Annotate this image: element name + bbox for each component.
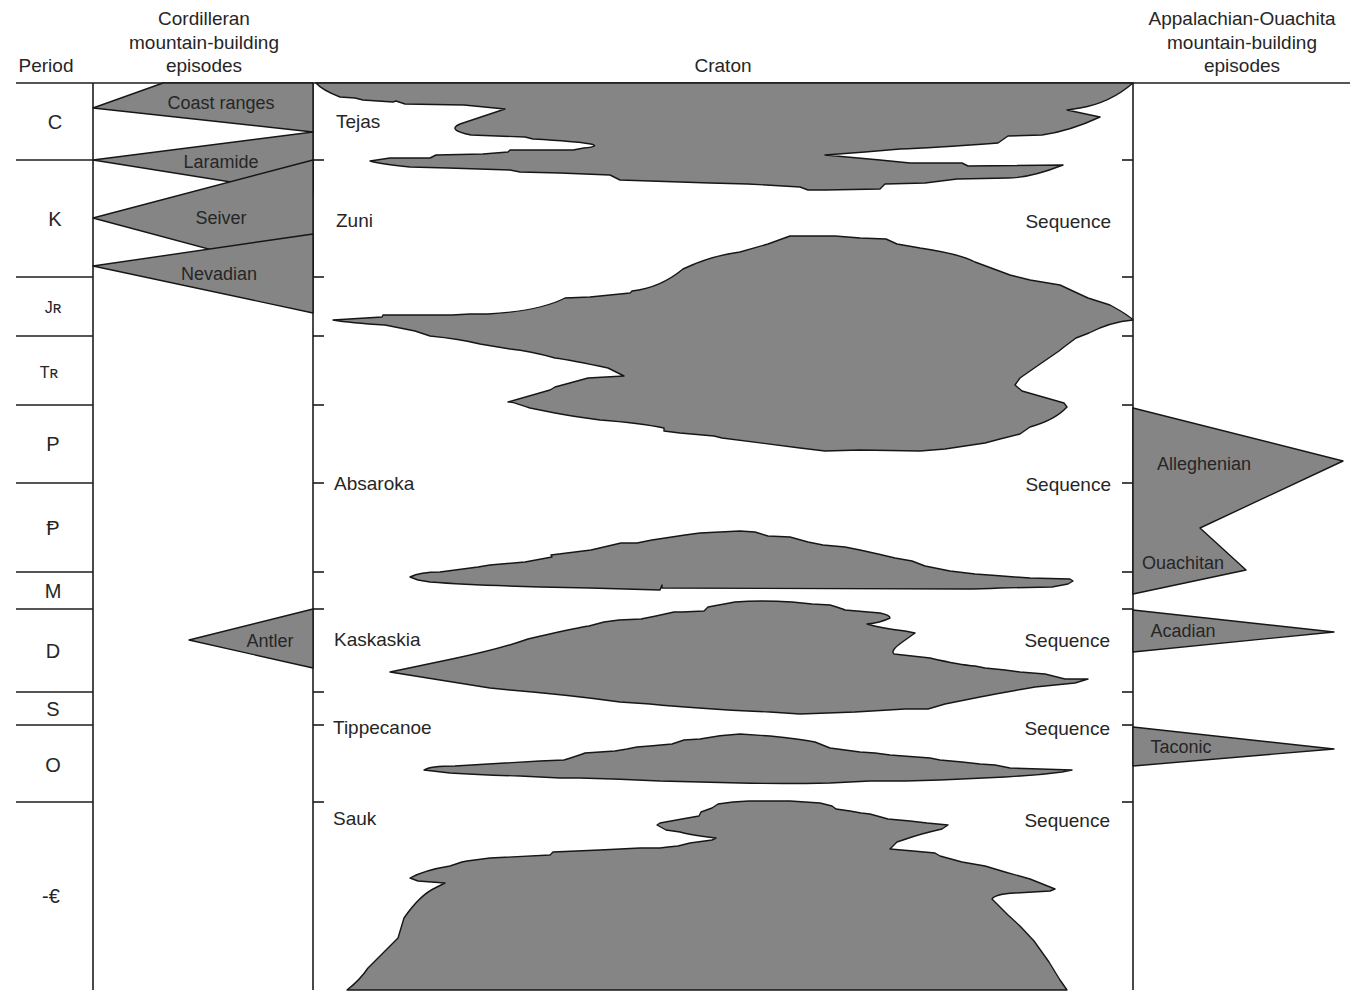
tippecanoe-sequence-shape [424, 734, 1072, 784]
acadian-label: Acadian [1150, 621, 1215, 641]
tejas-sequence-shape [316, 83, 1133, 190]
header-appalachian-2: mountain-building [1167, 32, 1317, 53]
tippecanoe-sequence-suffix: Sequence [1024, 718, 1110, 739]
taconic-label: Taconic [1150, 737, 1211, 757]
sauk-sequence-shape [347, 801, 1067, 990]
header-appalachian-3: episodes [1204, 55, 1280, 76]
kaskaskia-label: Kaskaskia [334, 629, 421, 650]
header-period: Period [19, 55, 74, 76]
absaroka-label: Absaroka [334, 473, 415, 494]
antler-label: Antler [246, 631, 293, 651]
tippecanoe-label: Tippecanoe [333, 717, 432, 738]
period-label-triassic: Tʀ [40, 364, 59, 381]
zuni-label: Zuni [336, 210, 373, 231]
alleghenian-label: Alleghenian [1157, 454, 1251, 474]
header-appalachian-1: Appalachian-Ouachita [1149, 8, 1336, 29]
laramide-label: Laramide [183, 152, 258, 172]
header-cordilleran-1: Cordilleran [158, 8, 250, 29]
period-label-s: S [46, 698, 59, 720]
sauk-label: Sauk [333, 808, 377, 829]
ouachitan-label: Ouachitan [1142, 553, 1224, 573]
header-cordilleran-2: mountain-building [129, 32, 279, 53]
craton-sequences [316, 83, 1133, 990]
period-label-cambrian: -€ [42, 885, 60, 907]
period-label-m: M [45, 580, 62, 602]
sequence-diagram: Period Cordilleran mountain-building epi… [0, 0, 1350, 996]
tejas-label: Tejas [336, 111, 380, 132]
period-label-c: C [48, 111, 62, 133]
period-label-d: D [46, 640, 60, 662]
header-craton: Craton [694, 55, 751, 76]
kaskaskia-sequence-shape [390, 601, 1088, 714]
sauk-sequence-suffix: Sequence [1024, 810, 1110, 831]
zuni-sequence-suffix: Sequence [1025, 211, 1111, 232]
period-label-pennsylvanian: Ᵽ [46, 517, 59, 539]
header-cordilleran-3: episodes [166, 55, 242, 76]
period-label-o: O [45, 754, 61, 776]
period-label-p: P [46, 433, 59, 455]
period-label-jurassic: Jʀ [45, 299, 62, 316]
seiver-label: Seiver [195, 208, 246, 228]
zuni-sequence-shape [333, 236, 1133, 451]
period-label-k: K [48, 208, 62, 230]
absaroka-sequence-suffix: Sequence [1025, 474, 1111, 495]
absaroka-sequence-shape [410, 531, 1073, 590]
kaskaskia-sequence-suffix: Sequence [1024, 630, 1110, 651]
nevadian-label: Nevadian [181, 264, 257, 284]
coast-ranges-label: Coast ranges [167, 93, 274, 113]
